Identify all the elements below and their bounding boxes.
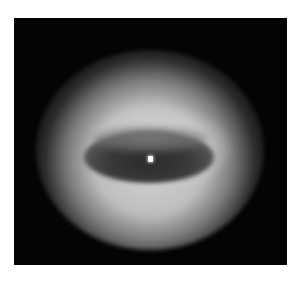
bright-spot	[148, 156, 153, 162]
center-haze	[92, 126, 207, 152]
image-frame	[14, 18, 287, 265]
